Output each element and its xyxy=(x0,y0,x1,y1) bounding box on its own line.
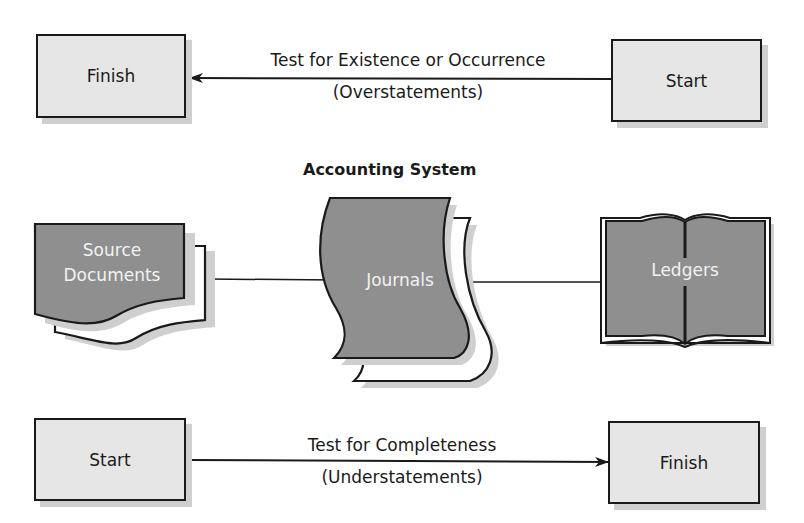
bottom-start-box: Start xyxy=(34,418,186,501)
top-start-label: Start xyxy=(666,71,708,91)
journals-label: Journals xyxy=(350,268,450,293)
top-caption-line1: Test for Existence or Occurrence xyxy=(218,47,598,73)
connector-source-journals xyxy=(206,279,336,280)
top-caption-line2: (Overstatements) xyxy=(218,79,598,105)
source-documents-line2: Documents xyxy=(42,263,182,288)
bottom-start-label: Start xyxy=(89,450,131,470)
source-documents-label: Source Documents xyxy=(42,238,182,288)
journals-shape xyxy=(320,198,498,388)
bottom-finish-box: Finish xyxy=(608,421,760,504)
source-documents-line1: Source xyxy=(42,238,182,263)
top-finish-label: Finish xyxy=(87,66,135,86)
bottom-flow-caption: Test for Completeness (Understatements) xyxy=(212,432,592,490)
bottom-caption-line2: (Understatements) xyxy=(212,464,592,490)
bottom-finish-label: Finish xyxy=(660,453,708,473)
top-finish-box: Finish xyxy=(36,34,186,118)
bottom-caption-line1: Test for Completeness xyxy=(212,432,592,458)
top-start-box: Start xyxy=(611,39,762,122)
ledgers-label: Ledgers xyxy=(640,258,730,283)
top-flow-caption: Test for Existence or Occurrence (Overst… xyxy=(218,47,598,105)
accounting-system-title: Accounting System xyxy=(303,160,476,179)
